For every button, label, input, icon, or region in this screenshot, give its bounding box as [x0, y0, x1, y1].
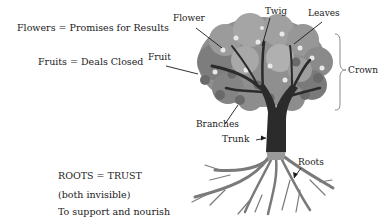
legend-roots-note: (both invisible) [58, 190, 130, 200]
label-trunk: Trunk [222, 135, 249, 144]
legend-fruits: Fruits = Deals Closed [38, 57, 143, 67]
label-twig: Twig [265, 7, 287, 16]
legend-roots-purpose: To support and nourish [58, 207, 170, 217]
label-roots: Roots [298, 158, 324, 167]
label-leaves: Leaves [308, 9, 340, 18]
label-fruit: Fruit [148, 53, 171, 62]
legend-roots-title: ROOTS = TRUST [58, 171, 142, 181]
label-crown: Crown [348, 66, 378, 75]
label-branches: Branches [196, 120, 239, 129]
crown-brace [335, 34, 346, 110]
label-flower: Flower [173, 14, 205, 23]
legend-flowers: Flowers = Promises for Results [17, 23, 169, 33]
